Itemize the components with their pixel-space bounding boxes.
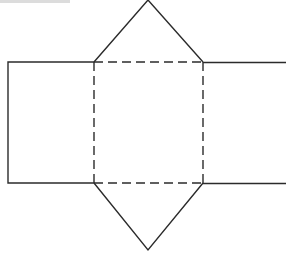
- bottom-triangle-face: [94, 183, 203, 250]
- top-triangle-face: [94, 0, 203, 62]
- center-square-fold-lines: [94, 62, 203, 183]
- left-rectangle-face: [8, 62, 94, 183]
- prism-net-diagram: [0, 0, 286, 253]
